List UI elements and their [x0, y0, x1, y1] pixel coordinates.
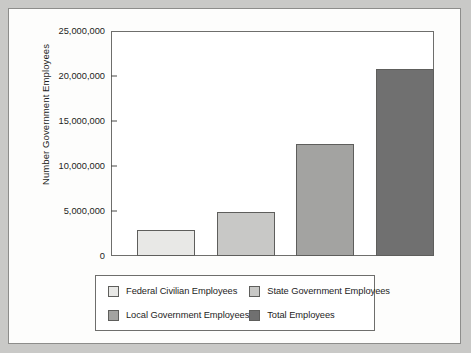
- y-tick-label: 25,000,000: [13, 26, 105, 36]
- legend-swatch-icon: [108, 310, 119, 321]
- legend-grid: Federal Civilian EmployeesState Governme…: [96, 276, 374, 330]
- plot-area: Number Government Employees 25,000,00020…: [9, 9, 462, 261]
- legend-item: Local Government Employees: [108, 310, 249, 321]
- legend-item: Total Employees: [249, 310, 390, 321]
- bar-4: [376, 69, 434, 256]
- figure-panel: Number Government Employees 25,000,00020…: [8, 8, 461, 344]
- y-tick-label: 20,000,000: [13, 71, 105, 81]
- bar-2: [217, 212, 275, 256]
- bar-3: [296, 144, 354, 256]
- bars-layer: [111, 31, 434, 256]
- y-axis-tick-labels: 25,000,00020,000,00015,000,00010,000,000…: [9, 9, 105, 261]
- legend-label: Total Employees: [267, 310, 334, 320]
- legend-swatch-icon: [249, 286, 260, 297]
- chart-legend: Federal Civilian EmployeesState Governme…: [95, 275, 375, 331]
- y-tick-label: 5,000,000: [13, 206, 105, 216]
- bar-1: [137, 230, 195, 256]
- legend-label: Federal Civilian Employees: [126, 286, 237, 296]
- legend-item: Federal Civilian Employees: [108, 286, 249, 297]
- legend-label: Local Government Employees: [126, 310, 249, 320]
- legend-swatch-icon: [108, 286, 119, 297]
- legend-label: State Government Employees: [267, 286, 390, 296]
- y-tick-label: 0: [13, 251, 105, 261]
- y-tick-label: 15,000,000: [13, 116, 105, 126]
- y-tick-label: 10,000,000: [13, 161, 105, 171]
- legend-swatch-icon: [249, 310, 260, 321]
- legend-item: State Government Employees: [249, 286, 390, 297]
